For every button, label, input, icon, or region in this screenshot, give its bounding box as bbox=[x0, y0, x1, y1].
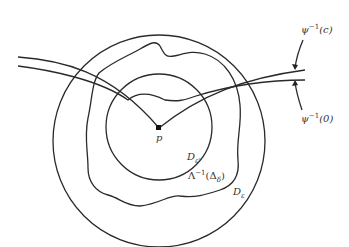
level-curve-psi-0 bbox=[18, 66, 305, 101]
label-d-eps: Dε bbox=[233, 187, 245, 200]
diagram: ψ−1(c) ψ−1(0) p Dε' Λ−1(Δδ) Dε bbox=[0, 0, 349, 247]
label-lambda-inverse-delta: Λ−1(Δδ) bbox=[188, 170, 225, 184]
diagram-canvas bbox=[0, 0, 349, 247]
arrow-psi-c bbox=[295, 40, 303, 68]
label-psi-inverse-0: ψ−1(0) bbox=[301, 113, 333, 124]
point-p-marker bbox=[156, 125, 161, 130]
label-psi-inverse-c: ψ−1(c) bbox=[301, 24, 333, 35]
label-p: p bbox=[156, 133, 162, 143]
label-d-eps-prime: Dε' bbox=[187, 152, 201, 165]
arrow-psi-0 bbox=[295, 82, 302, 110]
